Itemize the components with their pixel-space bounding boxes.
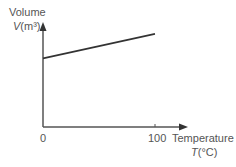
y-axis-title: Volume <box>9 6 46 18</box>
y-axis-arrow-icon <box>40 22 47 31</box>
x-tick-label-100: 100 <box>148 132 166 144</box>
volume-line <box>43 34 155 59</box>
x-axis-symbol: T <box>191 146 198 158</box>
x-axis-unit-label: T(°C) <box>191 146 217 158</box>
x-axis-arrow-icon <box>179 124 188 131</box>
x-tick-label-0: 0 <box>40 132 46 144</box>
x-axis-title: Temperature <box>172 132 234 144</box>
y-axis-unit: (m³) <box>20 20 40 32</box>
x-axis-unit: (°C) <box>198 146 218 158</box>
y-axis-unit-label: V(m³) <box>13 20 41 32</box>
